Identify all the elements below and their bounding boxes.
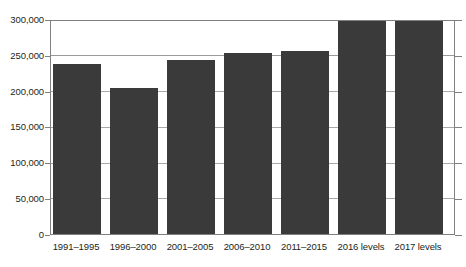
bar-1991-1995 — [53, 64, 101, 234]
x-tick-label-2017-levels: 2017 levels — [386, 241, 450, 253]
y-tick-label-300000: 300,000 — [0, 15, 44, 25]
y-tick-mark-right-0 — [455, 235, 462, 236]
bar-2017-levels — [395, 21, 443, 234]
y-tick-mark-right-250000 — [455, 56, 462, 57]
bars-layer — [51, 21, 454, 234]
x-axis: 1991–1995 1996–2000 2001–2005 2006–2010 … — [50, 241, 455, 257]
bar-1996-2000 — [110, 88, 158, 234]
y-tick-mark-right-150000 — [455, 127, 462, 128]
y-tick-mark-right-200000 — [455, 92, 462, 93]
y-tick-label-100000: 100,000 — [0, 158, 44, 168]
bar-2006-2010 — [224, 53, 272, 234]
x-tick-label-2011-2015: 2011–2015 — [272, 241, 336, 253]
y-tick-label-150000: 150,000 — [0, 122, 44, 132]
y-tick-label-200000: 200,000 — [0, 87, 44, 97]
plot-area — [50, 20, 455, 235]
bar-2016-levels — [338, 21, 386, 234]
bar-2011-2015 — [281, 51, 329, 234]
y-tick-mark-right-100000 — [455, 163, 462, 164]
x-tick-label-2006-2010: 2006–2010 — [215, 241, 279, 253]
y-axis: 300,000 250,000 200,000 150,000 100,000 … — [0, 0, 44, 267]
y-tick-label-50000: 50,000 — [0, 194, 44, 204]
y-tick-label-0: 0 — [0, 230, 44, 240]
y-tick-mark-right-50000 — [455, 199, 462, 200]
bar-chart: 300,000 250,000 200,000 150,000 100,000 … — [0, 0, 466, 267]
y-tick-mark-right-300000 — [455, 20, 462, 21]
x-tick-label-1996-2000: 1996–2000 — [101, 241, 165, 253]
y-tick-mark-0 — [45, 235, 50, 236]
y-tick-label-250000: 250,000 — [0, 51, 44, 61]
bar-2001-2005 — [167, 60, 215, 234]
x-tick-label-2001-2005: 2001–2005 — [158, 241, 222, 253]
x-tick-label-2016-levels: 2016 levels — [329, 241, 393, 253]
x-tick-label-1991-1995: 1991–1995 — [44, 241, 108, 253]
